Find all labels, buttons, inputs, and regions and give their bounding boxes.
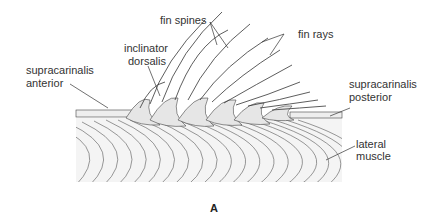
label-lateral-muscle-line2: muscle <box>356 150 391 162</box>
label-supracarinalis-anterior-line1: supracarinalis <box>26 64 94 76</box>
label-lateral-muscle-line1: lateral <box>356 138 386 150</box>
panel-label: A <box>210 202 218 214</box>
label-supracarinalis-posterior-line2: posterior <box>349 91 392 103</box>
label-fin-rays: fin rays <box>298 28 333 40</box>
lateral-muscle-block <box>60 118 365 185</box>
label-fin-spines: fin spines <box>160 14 206 26</box>
label-inclinator-line1: inclinator <box>124 42 168 54</box>
fin-elements <box>140 12 326 110</box>
label-supracarinalis-anterior-line2: anterior <box>26 77 63 89</box>
fin-muscle-diagram <box>0 0 422 223</box>
label-inclinator-line2: dorsalis <box>128 55 166 67</box>
label-supracarinalis-posterior-line1: supracarinalis <box>349 78 417 90</box>
